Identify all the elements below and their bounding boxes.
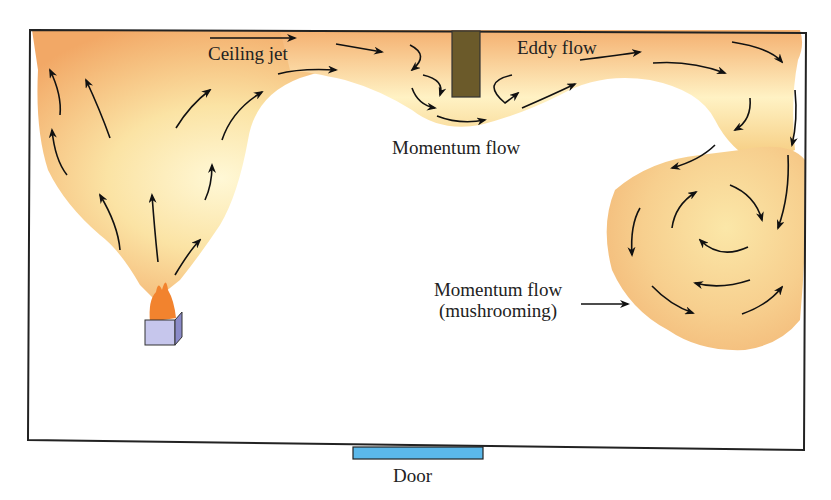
momentum-flow-label: Momentum flow xyxy=(392,138,520,159)
smoke-region xyxy=(32,30,806,350)
ceiling-jet-label: Ceiling jet xyxy=(208,44,288,65)
mushroom-cloud xyxy=(607,147,806,350)
fuel-box-side xyxy=(175,312,182,345)
eddy-flow-label: Eddy flow xyxy=(517,38,597,59)
door-label: Door xyxy=(393,466,432,487)
momentum-mushroom-label: Momentum flow (mushrooming) xyxy=(420,280,576,322)
momentum-mushroom-line1: Momentum flow xyxy=(420,280,576,301)
door xyxy=(353,447,483,459)
smoke-flow-diagram xyxy=(0,0,831,500)
fuel-box-front xyxy=(145,320,175,345)
obstruction-beam xyxy=(452,31,480,97)
momentum-mushroom-line2: (mushrooming) xyxy=(420,301,576,322)
